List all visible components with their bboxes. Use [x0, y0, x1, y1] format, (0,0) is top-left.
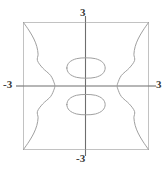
x-axis-min-label: -3: [3, 79, 12, 90]
y-axis-min-label: -3: [76, 153, 85, 164]
implicit-curve-plot: 3 -3 -3 3: [0, 0, 168, 171]
y-axis-max-label: 3: [80, 7, 86, 18]
plot-canvas: [0, 0, 168, 171]
x-axis-max-label: 3: [156, 79, 162, 90]
